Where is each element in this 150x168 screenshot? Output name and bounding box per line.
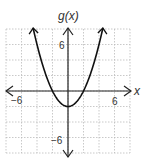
- x-axis-label: x: [133, 84, 141, 98]
- coordinate-plane: g(x) x −6 6 6 −6: [0, 0, 150, 168]
- y-tick-neg6: −6: [51, 135, 63, 146]
- x-tick-6: 6: [112, 96, 118, 107]
- x-tick-neg6: −6: [11, 95, 23, 106]
- y-axis-label: g(x): [58, 9, 79, 23]
- y-tick-6: 6: [59, 40, 65, 51]
